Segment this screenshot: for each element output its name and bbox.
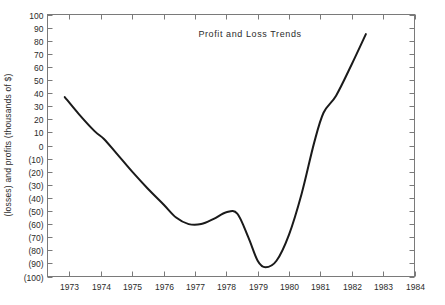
x-tick-label: 1983 [374,282,393,292]
y-tick-label: (50) [28,207,43,217]
y-tick-label: (20) [28,168,43,178]
y-tick-label: (60) [28,220,43,230]
y-tick-label: 10 [34,128,44,138]
y-tick-label: 0 [39,142,44,152]
x-tick-label: 1982 [343,282,362,292]
y-tick-label: 80 [34,37,44,47]
y-axis-title: (losses) and profits (thousands of $) [3,74,13,217]
chart-figure: 1009080706050403020100(10)(20)(30)(40)(5… [0,0,445,305]
x-tick-label: 1978 [217,282,236,292]
x-tick-label: 1979 [249,282,268,292]
y-tick-label: 90 [34,24,44,34]
y-tick-label: 50 [34,76,44,86]
y-tick-label: 70 [34,50,44,60]
x-tick-label: 1984 [406,282,425,292]
x-tick-label: 1976 [155,282,174,292]
chart-title: Profit and Loss Trends [198,29,301,39]
y-tick-label: (40) [28,194,43,204]
y-tick-label: 100 [29,11,43,21]
profit-loss-line-chart: 1009080706050403020100(10)(20)(30)(40)(5… [0,0,445,305]
y-tick-label: (30) [28,181,43,191]
x-tick-label: 1975 [123,282,142,292]
y-tick-label: (70) [28,233,43,243]
y-tick-label: (90) [28,259,43,269]
x-tick-label: 1973 [60,282,79,292]
x-tick-label: 1977 [186,282,205,292]
y-tick-label: 20 [34,115,44,125]
y-tick-label: 60 [34,63,44,73]
chart-background [0,0,445,305]
y-tick-label: (100) [24,273,44,283]
x-tick-label: 1980 [280,282,299,292]
y-tick-label: (80) [28,246,43,256]
x-tick-label: 1981 [311,282,330,292]
y-tick-label: (10) [28,155,43,165]
y-tick-label: 30 [34,102,44,112]
x-tick-label: 1974 [92,282,111,292]
y-tick-label: 40 [34,89,44,99]
